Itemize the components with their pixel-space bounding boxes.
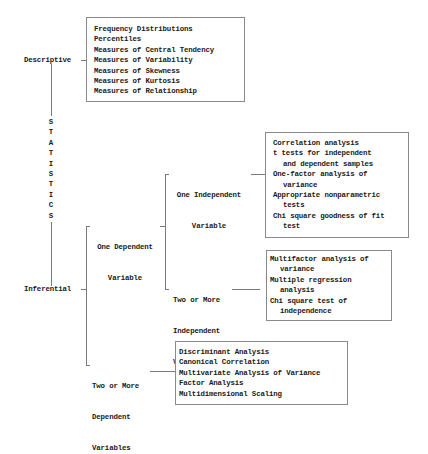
root-spine-bottom: [51, 222, 52, 286]
method-item: Chi square test of: [270, 296, 391, 306]
two-dependent-methods-box: Discriminant Analysis Canonical Correlat…: [175, 341, 348, 405]
descriptive-item: Frequency Distributions: [94, 24, 244, 34]
two-independent-connector: [232, 289, 260, 290]
method-item: Multidimensional Scaling: [179, 389, 347, 399]
descriptive-item: Percentiles: [94, 34, 244, 44]
two-independent-tick: [165, 289, 169, 290]
one-dependent-spine: [165, 174, 166, 290]
one-independent-connector: [251, 174, 265, 175]
method-item: Multiple regression: [270, 275, 391, 285]
method-item-cont: test: [273, 221, 408, 231]
statistics-label: S T A T I S T I C S: [46, 117, 56, 221]
one-independent-methods-box: Correlation analysis t tests for indepen…: [265, 132, 409, 238]
one-dependent-label: One Dependent Variable: [91, 221, 159, 294]
descriptive-label: Descriptive: [24, 55, 71, 65]
descriptive-item: Measures of Central Tendency: [94, 45, 244, 55]
two-dependent-label: Two or More Dependent Variables: [92, 360, 139, 454]
inferential-label: Inferential: [24, 284, 71, 294]
method-item: Correlation analysis: [273, 138, 408, 148]
method-item: One-factor analysis of: [273, 169, 408, 179]
two-dependent-connector: [150, 371, 175, 372]
method-item: Multifactor analysis of: [270, 254, 391, 264]
descriptive-item: Measures of Variability: [94, 55, 244, 65]
method-item: Factor Analysis: [179, 378, 347, 388]
method-item: t tests for independent: [273, 148, 408, 158]
method-item: Appropriate nonparametric: [273, 190, 408, 200]
method-item-cont: variance: [270, 264, 391, 274]
one-dependent-tick: [86, 226, 90, 227]
method-item-cont: tests: [273, 200, 408, 210]
method-item-cont: and dependent samples: [273, 159, 408, 169]
method-item: Multivariate Analysis of Variance: [179, 368, 347, 378]
method-item: Chi square goodness of fit: [273, 211, 408, 221]
inferential-spine: [86, 226, 87, 366]
method-item: Canonical Correlation: [179, 357, 347, 367]
method-item-cont: variance: [273, 180, 408, 190]
method-item-cont: analysis: [270, 285, 391, 295]
one-independent-tick: [165, 174, 169, 175]
method-item-cont: independence: [270, 306, 391, 316]
two-independent-methods-box: Multifactor analysis of variance Multipl…: [266, 250, 392, 321]
one-independent-label: One Independent Variable: [170, 169, 248, 242]
two-dependent-tick: [86, 365, 90, 366]
root-spine-top: [51, 64, 52, 116]
method-item: Discriminant Analysis: [179, 347, 347, 357]
descriptive-methods-box: Frequency Distributions Percentiles Meas…: [86, 17, 245, 102]
descriptive-item: Measures of Skewness: [94, 66, 244, 76]
descriptive-item: Measures of Kurtosis: [94, 76, 244, 86]
descriptive-item: Measures of Relationship: [94, 86, 244, 96]
